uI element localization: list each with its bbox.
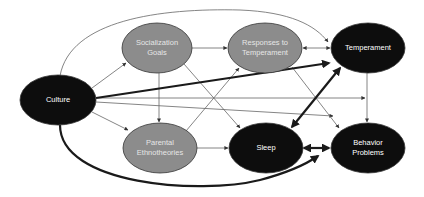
- node-temperament: [331, 23, 405, 73]
- node-behavior-problems: [331, 123, 405, 173]
- node-parental-ethnotheories: [123, 123, 197, 173]
- edge-culture-to-socialization: [92, 63, 126, 88]
- node-socialization-goals: [122, 23, 192, 73]
- node-sleep: [229, 123, 303, 173]
- thin-edges: [60, 10, 367, 148]
- thick-edges: [60, 63, 340, 186]
- edge-culture-to-behavior: [96, 102, 333, 116]
- node-responses-to-temperament: [228, 23, 302, 73]
- edge-socialization-to-sleep: [184, 64, 240, 128]
- edge-culture-to-parental: [92, 112, 128, 130]
- edge-culture-to-temperament-thick: [96, 63, 329, 98]
- node-culture: [20, 75, 96, 125]
- path-diagram: [0, 0, 424, 197]
